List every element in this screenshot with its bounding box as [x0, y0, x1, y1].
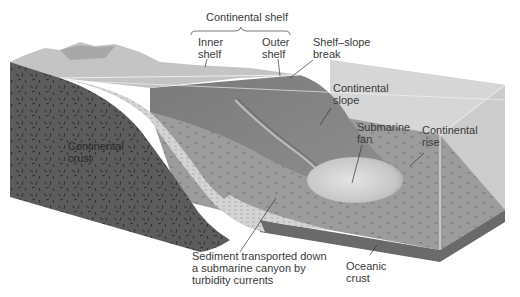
- label-inner-shelf: Inner shelf: [198, 36, 223, 60]
- label-continental-shelf: Continental shelf: [206, 11, 288, 23]
- label-submarine-fan: Submarine fan: [357, 121, 410, 145]
- label-shelf-slope-break: Shelf–slope break: [313, 36, 371, 60]
- label-continental-slope: Continental slope: [333, 82, 389, 106]
- label-continental-rise: Continental rise: [422, 124, 478, 148]
- continental-margin-diagram: Continental shelf Inner shelf Outer shel…: [0, 0, 520, 297]
- label-continental-crust: Continental crust: [68, 140, 124, 164]
- submarine-fan-deposit: [307, 157, 403, 203]
- label-outer-shelf: Outer shelf: [262, 36, 290, 60]
- label-oceanic-crust: Oceanic crust: [346, 260, 386, 284]
- continental-shelf-bracket: [191, 27, 290, 35]
- label-sediment-transport: Sediment transported down a submarine ca…: [192, 250, 327, 286]
